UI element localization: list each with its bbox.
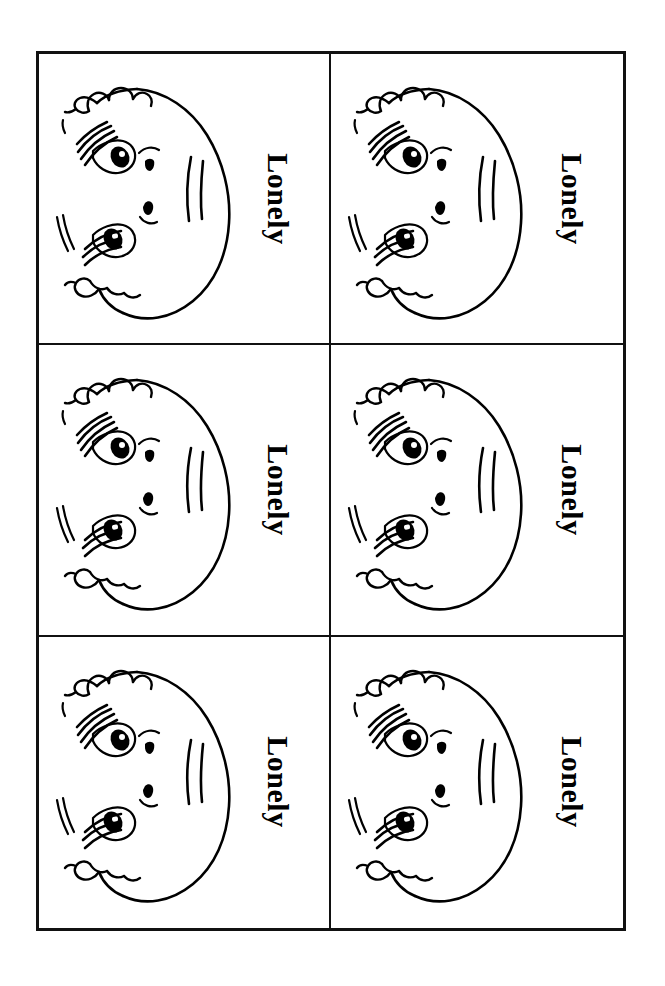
flashcard-cell[interactable]: Lonely [331, 345, 623, 636]
card-caption: Lonely [556, 737, 586, 828]
flashcard-cell[interactable]: Lonely [331, 54, 623, 345]
card-caption: Lonely [262, 153, 292, 244]
flashcard-sheet: Lonely [36, 51, 626, 931]
card-caption: Lonely [556, 153, 586, 244]
flashcard-cell[interactable]: Lonely [39, 345, 331, 636]
flashcard-cell[interactable]: Lonely [39, 54, 331, 345]
lonely-face-icon [333, 356, 565, 624]
flashcard-cell[interactable]: Lonely [331, 637, 623, 928]
lonely-face-icon [41, 648, 273, 916]
lonely-face-icon [333, 65, 565, 333]
lonely-face-icon [333, 648, 565, 916]
flashcard-cell[interactable]: Lonely [39, 637, 331, 928]
lonely-face-icon [41, 356, 273, 624]
card-caption: Lonely [556, 444, 586, 535]
card-caption: Lonely [262, 444, 292, 535]
card-caption: Lonely [262, 737, 292, 828]
lonely-face-icon [41, 65, 273, 333]
page-canvas: Lonely [0, 0, 665, 986]
